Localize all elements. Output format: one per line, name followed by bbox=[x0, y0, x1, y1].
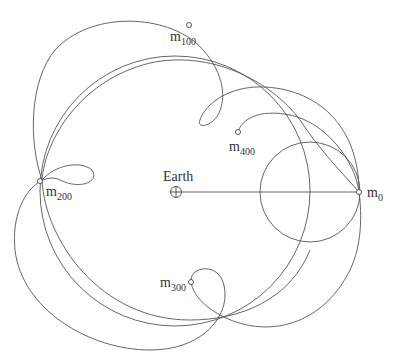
marker-base: m bbox=[160, 275, 171, 290]
earth-icon bbox=[171, 187, 182, 198]
trajectory-lower-path bbox=[42, 180, 310, 320]
marker-m400-dot bbox=[236, 130, 241, 135]
marker-sub: 200 bbox=[57, 191, 72, 202]
orbit-diagram bbox=[0, 0, 394, 364]
trajectory-inner-path-2 bbox=[42, 60, 359, 192]
marker-m300-dot bbox=[189, 280, 194, 285]
marker-base: m bbox=[229, 139, 240, 154]
marker-base: m bbox=[170, 29, 181, 44]
marker-sub: 0 bbox=[378, 192, 383, 203]
marker-sub: 300 bbox=[171, 282, 186, 293]
marker-m100-dot bbox=[187, 23, 192, 28]
earth-label: Earth bbox=[163, 170, 193, 184]
marker-m0-label: m0 bbox=[367, 186, 383, 203]
marker-m400-label: m400 bbox=[229, 140, 255, 157]
marker-m0-dot bbox=[357, 190, 362, 195]
marker-base: m bbox=[367, 185, 378, 200]
marker-sub: 100 bbox=[181, 36, 196, 47]
marker-sub: 400 bbox=[240, 146, 255, 157]
marker-m200-dot bbox=[38, 179, 43, 184]
marker-m100-label: m100 bbox=[170, 30, 196, 47]
marker-m200-label: m200 bbox=[46, 185, 72, 202]
marker-base: m bbox=[46, 184, 57, 199]
marker-m300-label: m300 bbox=[160, 276, 186, 293]
